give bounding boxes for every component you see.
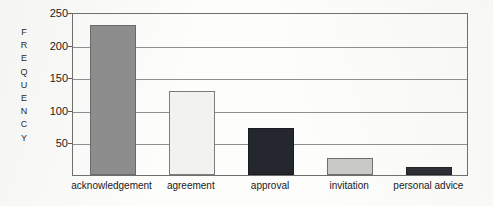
y-axis-title-letter: Y — [21, 132, 27, 145]
plot-area — [72, 13, 468, 176]
bar-personal-advice — [406, 167, 452, 175]
category-label-personal-advice: personal advice — [393, 180, 463, 191]
y-axis-title-letter: R — [21, 39, 28, 52]
y-axis-title-letter: F — [21, 26, 27, 39]
y-tick-label: 50 — [56, 137, 68, 149]
y-axis-title-letter: E — [21, 92, 27, 105]
y-axis-title-letter: Q — [20, 66, 27, 79]
bar-agreement — [169, 91, 215, 175]
category-label-acknowledgement: acknowledgement — [71, 180, 152, 191]
category-label-agreement: agreement — [167, 180, 215, 191]
y-axis-title-letter: C — [21, 118, 28, 131]
bar-acknowledgement — [90, 25, 136, 175]
y-tick-label: 100 — [50, 105, 68, 117]
bar-chart: F R E Q U E N C Y 50 100 150 200 250 ack… — [0, 0, 493, 206]
y-tick-label: 200 — [50, 40, 68, 52]
y-tick-label: 250 — [50, 7, 68, 19]
category-label-approval: approval — [251, 180, 289, 191]
y-tick-label: 150 — [50, 72, 68, 84]
y-axis-tick-labels: 50 100 150 200 250 — [36, 0, 68, 206]
bar-approval — [248, 128, 294, 175]
y-axis-title-letter: N — [21, 105, 28, 118]
y-axis-title-letter: U — [21, 79, 28, 92]
y-axis-title: F R E Q U E N C Y — [16, 26, 32, 145]
category-label-invitation: invitation — [329, 180, 368, 191]
y-axis-title-letter: E — [21, 52, 27, 65]
bar-invitation — [327, 158, 373, 175]
